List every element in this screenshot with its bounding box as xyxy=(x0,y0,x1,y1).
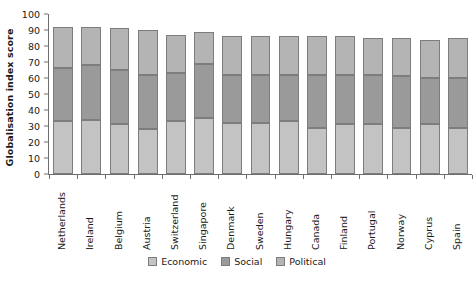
y-axis-title: Globalisation index score xyxy=(0,0,20,195)
bar-segment-economic xyxy=(335,124,355,174)
bar-portugal[interactable] xyxy=(363,14,383,174)
x-tick-3 xyxy=(134,175,135,179)
x-label-denmark: Denmark xyxy=(225,206,236,250)
bar-segment-economic xyxy=(448,128,468,174)
bar-segment-social xyxy=(392,76,412,127)
bar-segment-social xyxy=(81,65,101,119)
bar-hungary[interactable] xyxy=(279,14,299,174)
x-label-sweden: Sweden xyxy=(254,212,265,250)
bar-finland[interactable] xyxy=(335,14,355,174)
bar-segment-political xyxy=(363,38,383,75)
legend-item-social[interactable]: Social xyxy=(221,256,262,267)
bar-segment-economic xyxy=(53,121,73,174)
bar-ireland[interactable] xyxy=(81,14,101,174)
bar-segment-political xyxy=(81,27,101,65)
bar-segment-economic xyxy=(363,124,383,174)
x-label-cyprus: Cyprus xyxy=(423,217,434,250)
x-tick-14 xyxy=(444,175,445,179)
y-tick-label-40: 40 xyxy=(28,105,40,116)
legend-item-political[interactable]: Political xyxy=(276,256,326,267)
legend-swatch-economic xyxy=(148,257,157,266)
bar-segment-social xyxy=(222,75,242,123)
bar-norway[interactable] xyxy=(392,14,412,174)
y-tick-label-50: 50 xyxy=(28,89,40,100)
bar-spain[interactable] xyxy=(448,14,468,174)
y-tick-label-80: 80 xyxy=(28,41,40,52)
x-tick-4 xyxy=(162,175,163,179)
x-label-spain: Spain xyxy=(451,223,462,250)
bar-belgium[interactable] xyxy=(110,14,130,174)
x-tick-8 xyxy=(275,175,276,179)
x-label-hungary: Hungary xyxy=(282,209,293,250)
y-tick-label-30: 30 xyxy=(28,121,40,132)
x-tick-2 xyxy=(105,175,106,179)
x-tick-7 xyxy=(246,175,247,179)
bar-segment-political xyxy=(53,27,73,69)
bar-switzerland[interactable] xyxy=(166,14,186,174)
y-axis-tick-labels: 0102030405060708090100 xyxy=(20,14,44,174)
bar-segment-social xyxy=(448,78,468,128)
x-tick-1 xyxy=(77,175,78,179)
legend-label-political: Political xyxy=(289,256,326,267)
x-tick-12 xyxy=(387,175,388,179)
bar-segment-social xyxy=(420,78,440,124)
bar-segment-political xyxy=(420,40,440,78)
bar-segment-political xyxy=(110,28,130,70)
bar-segment-political xyxy=(335,36,355,74)
y-tick-label-10: 10 xyxy=(28,153,40,164)
bar-segment-economic xyxy=(222,123,242,174)
bar-segment-social xyxy=(307,75,327,128)
bar-segment-social xyxy=(110,70,130,124)
plot-area: 0102030405060708090100 xyxy=(20,14,472,189)
bar-segment-social xyxy=(363,75,383,125)
bar-segment-social xyxy=(251,75,271,123)
x-label-netherlands: Netherlands xyxy=(56,192,67,250)
bar-segment-economic xyxy=(279,121,299,174)
x-axis-category-labels: NetherlandsIrelandBelgiumAustriaSwitzerl… xyxy=(49,192,472,250)
x-tick-11 xyxy=(359,175,360,179)
bar-segment-political xyxy=(194,32,214,64)
bar-netherlands[interactable] xyxy=(53,14,73,174)
x-tick-13 xyxy=(416,175,417,179)
bar-sweden[interactable] xyxy=(251,14,271,174)
bar-canada[interactable] xyxy=(307,14,327,174)
x-tick-6 xyxy=(218,175,219,179)
x-tick-end xyxy=(472,175,473,179)
y-tick-label-100: 100 xyxy=(22,9,40,20)
x-label-norway: Norway xyxy=(395,214,406,250)
x-label-canada: Canada xyxy=(310,214,321,250)
x-tick-0 xyxy=(49,175,50,179)
bar-segment-political xyxy=(307,36,327,74)
bar-segment-political xyxy=(392,38,412,76)
bar-segment-economic xyxy=(307,128,327,174)
legend-item-economic[interactable]: Economic xyxy=(148,256,207,267)
x-label-austria: Austria xyxy=(141,216,152,250)
bar-segment-economic xyxy=(194,118,214,174)
y-tick-label-60: 60 xyxy=(28,73,40,84)
y-tick-label-90: 90 xyxy=(28,25,40,36)
bar-segment-economic xyxy=(166,121,186,174)
bar-singapore[interactable] xyxy=(194,14,214,174)
bar-segment-social xyxy=(166,73,186,121)
bar-segment-political xyxy=(448,38,468,78)
x-tick-10 xyxy=(331,175,332,179)
bar-segment-economic xyxy=(81,120,101,174)
bar-segment-political xyxy=(138,30,158,75)
x-tick-9 xyxy=(303,175,304,179)
bar-segment-economic xyxy=(420,124,440,174)
bar-segment-political xyxy=(222,36,242,74)
bar-segment-social xyxy=(53,68,73,121)
legend-label-economic: Economic xyxy=(161,256,207,267)
bar-segment-social xyxy=(335,75,355,125)
bar-austria[interactable] xyxy=(138,14,158,174)
x-label-portugal: Portugal xyxy=(366,211,377,250)
bar-segment-political xyxy=(251,36,271,74)
bar-segment-political xyxy=(279,36,299,74)
bar-cyprus[interactable] xyxy=(420,14,440,174)
bar-denmark[interactable] xyxy=(222,14,242,174)
bar-segment-social xyxy=(138,75,158,129)
x-label-belgium: Belgium xyxy=(113,211,124,250)
x-label-switzerland: Switzerland xyxy=(169,195,180,250)
x-label-singapore: Singapore xyxy=(197,202,208,250)
bar-segment-economic xyxy=(110,124,130,174)
